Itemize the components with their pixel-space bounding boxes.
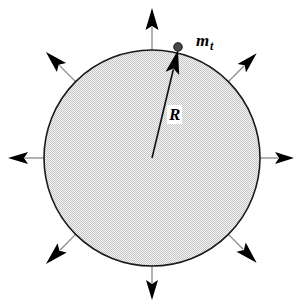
diagram-svg — [0, 0, 302, 305]
arrow-lower-left-shaft — [60, 234, 76, 250]
arrow-lower-right-shaft — [228, 234, 244, 250]
point-mass-dot — [174, 43, 182, 51]
arrow-upper-right-shaft — [228, 66, 244, 82]
arrow-upper-left-shaft — [59, 65, 76, 82]
arrow-up-head — [146, 8, 159, 30]
point-mass-label-subscript: t — [210, 39, 214, 53]
figure-canvas: mt R — [0, 0, 302, 305]
radius-label: R — [167, 105, 182, 124]
point-mass-label: mt — [196, 32, 214, 52]
point-mass-label-base: m — [196, 31, 210, 50]
